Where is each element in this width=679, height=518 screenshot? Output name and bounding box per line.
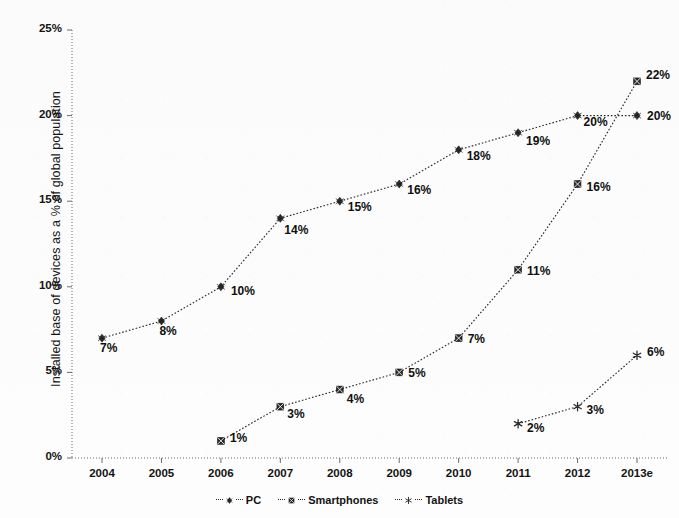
data-point-label: 14% bbox=[284, 223, 308, 237]
data-point-label: 19% bbox=[526, 134, 550, 148]
data-point-label: 1% bbox=[230, 431, 247, 445]
data-point-marker bbox=[395, 180, 403, 188]
x-axis-tick-label: 2006 bbox=[191, 467, 251, 479]
legend-item-tablets[interactable]: Tablets bbox=[395, 494, 463, 506]
data-point-marker bbox=[514, 420, 521, 428]
data-point-label: 18% bbox=[467, 149, 491, 163]
x-axis-tick-label: 2013e bbox=[607, 467, 667, 479]
data-point-label: 3% bbox=[587, 403, 604, 417]
y-axis-tick-label: 5% bbox=[20, 364, 62, 376]
legend-line-icon bbox=[236, 499, 243, 501]
y-axis-tick-label: 10% bbox=[20, 279, 62, 291]
legend-label-pc: PC bbox=[246, 494, 261, 506]
data-point-label: 20% bbox=[647, 109, 671, 123]
legend-item-smartphones[interactable]: Smartphones bbox=[278, 494, 378, 506]
data-point-marker bbox=[574, 181, 581, 188]
legend-line-icon bbox=[298, 499, 305, 501]
legend-line-icon bbox=[278, 499, 285, 501]
crossbox-marker-icon bbox=[287, 496, 296, 505]
legend-item-pc[interactable]: PC bbox=[216, 494, 261, 506]
chart-figure: Installed base of devices as a % of glob… bbox=[0, 0, 679, 518]
data-point-label: 6% bbox=[647, 345, 664, 359]
x-axis-tick-label: 2004 bbox=[72, 467, 132, 479]
data-point-marker bbox=[574, 402, 581, 410]
x-axis-tick-label: 2008 bbox=[310, 467, 370, 479]
chart-plot-area bbox=[0, 0, 679, 518]
data-point-marker bbox=[277, 403, 284, 410]
x-axis-tick-label: 2010 bbox=[429, 467, 489, 479]
data-point-label: 4% bbox=[347, 392, 364, 406]
x-axis-tick-label: 2011 bbox=[488, 467, 548, 479]
data-point-label: 2% bbox=[527, 421, 544, 435]
legend-line-icon bbox=[415, 499, 422, 501]
diamond-marker-icon bbox=[225, 496, 234, 505]
data-point-label: 16% bbox=[587, 180, 611, 194]
chart-legend: PC Smartphones Tablets bbox=[0, 494, 679, 506]
data-point-marker bbox=[633, 112, 641, 120]
data-point-label: 8% bbox=[159, 324, 176, 338]
data-point-marker bbox=[455, 335, 462, 342]
legend-line-icon bbox=[216, 499, 223, 501]
x-axis-tick-label: 2009 bbox=[369, 467, 429, 479]
data-point-marker bbox=[336, 197, 344, 205]
data-point-label: 15% bbox=[348, 200, 372, 214]
data-point-label: 20% bbox=[584, 115, 608, 129]
data-point-marker bbox=[574, 112, 582, 120]
x-axis-tick-label: 2005 bbox=[131, 467, 191, 479]
data-point-marker bbox=[455, 146, 463, 154]
series-layer bbox=[98, 78, 641, 444]
data-point-marker bbox=[634, 78, 641, 85]
legend-line-icon bbox=[395, 499, 402, 501]
legend-label-smartphones: Smartphones bbox=[308, 494, 378, 506]
y-axis-tick-label: 25% bbox=[20, 22, 62, 34]
data-point-label: 10% bbox=[231, 284, 255, 298]
data-point-marker bbox=[396, 369, 403, 376]
x-axis-tick-label: 2012 bbox=[548, 467, 608, 479]
data-point-marker bbox=[515, 266, 522, 273]
x-axis-tick-label: 2007 bbox=[250, 467, 310, 479]
data-point-label: 16% bbox=[407, 183, 431, 197]
data-point-marker bbox=[514, 129, 522, 137]
data-point-label: 11% bbox=[527, 264, 550, 278]
data-point-label: 22% bbox=[646, 68, 670, 82]
data-point-marker bbox=[217, 437, 224, 444]
data-point-label: 5% bbox=[408, 366, 425, 380]
y-axis-tick-label: 0% bbox=[20, 450, 62, 462]
y-axis-tick-label: 15% bbox=[20, 193, 62, 205]
axis-lines bbox=[72, 30, 667, 458]
legend-label-tablets: Tablets bbox=[425, 494, 463, 506]
y-axis-tick-label: 20% bbox=[20, 108, 62, 120]
data-point-marker bbox=[336, 386, 343, 393]
data-point-label: 7% bbox=[468, 332, 485, 346]
data-point-label: 3% bbox=[287, 407, 304, 421]
data-point-label: 7% bbox=[100, 341, 117, 355]
asterisk-marker-icon bbox=[404, 496, 413, 505]
